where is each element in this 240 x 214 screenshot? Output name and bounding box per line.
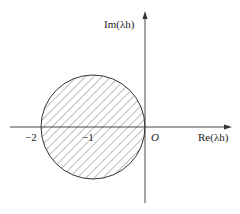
- imaginary-axis-arrow-icon: [143, 11, 148, 19]
- imaginary-axis-label: Im(λh): [104, 18, 135, 31]
- stability-region-diagram: Im(λh) Re(λh) O −2 −1: [0, 0, 240, 214]
- stability-disk: [0, 0, 240, 214]
- tick-label-minus-1: −1: [82, 131, 94, 143]
- origin-label: O: [151, 131, 159, 143]
- imaginary-axis: [143, 11, 148, 203]
- tick-label-minus-2: −2: [25, 131, 37, 143]
- disk-hatching: [0, 0, 240, 214]
- real-axis-arrow-icon: [224, 125, 232, 130]
- real-axis-label: Re(λh): [198, 131, 229, 144]
